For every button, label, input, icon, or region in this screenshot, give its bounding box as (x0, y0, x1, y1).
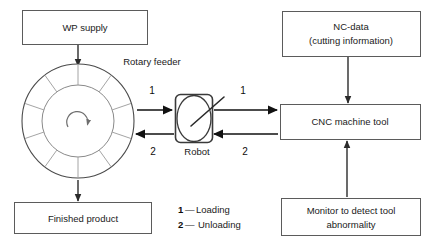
process-flow-diagram: WP supply (0, 0, 431, 249)
monitor-label-line2: abnormality (326, 219, 375, 230)
box-monitor: Monitor to detect tool abnormality (282, 199, 421, 236)
rotary-feeder-graphic (22, 64, 134, 178)
rotary-feeder-label: Rotary feeder (123, 56, 181, 67)
box-cnc-machine-tool: CNC machine tool (281, 105, 421, 140)
legend-text-loading: Loading (196, 204, 230, 215)
monitor-label-line1: Monitor to detect tool (307, 205, 396, 216)
box-finished-product: Finished product (15, 203, 152, 234)
legend-text-unloading: Unloading (198, 219, 241, 230)
flow-marker-feeder-to-robot: 1 (149, 85, 155, 96)
robot-label: Robot (184, 146, 210, 157)
legend-dash-1: — (185, 204, 195, 215)
box-wp-supply: WP supply (23, 11, 148, 45)
flow-marker-robot-to-cnc: 1 (240, 85, 246, 96)
feeder-inner-ring (42, 85, 114, 157)
legend: 1 — Loading 2 — Unloading (178, 204, 241, 230)
nc-data-label-line1: NC-data (333, 21, 369, 32)
wp-supply-label: WP supply (62, 22, 107, 33)
flow-marker-robot-to-feeder: 2 (150, 146, 156, 157)
legend-item-loading: 1 — Loading (178, 204, 230, 215)
legend-item-unloading: 2 — Unloading (178, 219, 241, 230)
flow-marker-cnc-to-robot: 2 (242, 146, 248, 157)
cnc-machine-label: CNC machine tool (311, 116, 388, 127)
box-nc-data: NC-data (cutting information) (283, 12, 421, 57)
robot-body-ellipse (177, 96, 211, 142)
legend-num-2: 2 (178, 219, 183, 230)
robot-graphic (176, 95, 225, 143)
nc-data-label-line2: (cutting information) (309, 35, 393, 46)
legend-num-1: 1 (178, 204, 184, 215)
diagram-canvas: WP supply (0, 0, 431, 249)
finished-product-label: Finished product (48, 213, 119, 224)
legend-dash-2: — (185, 219, 195, 230)
